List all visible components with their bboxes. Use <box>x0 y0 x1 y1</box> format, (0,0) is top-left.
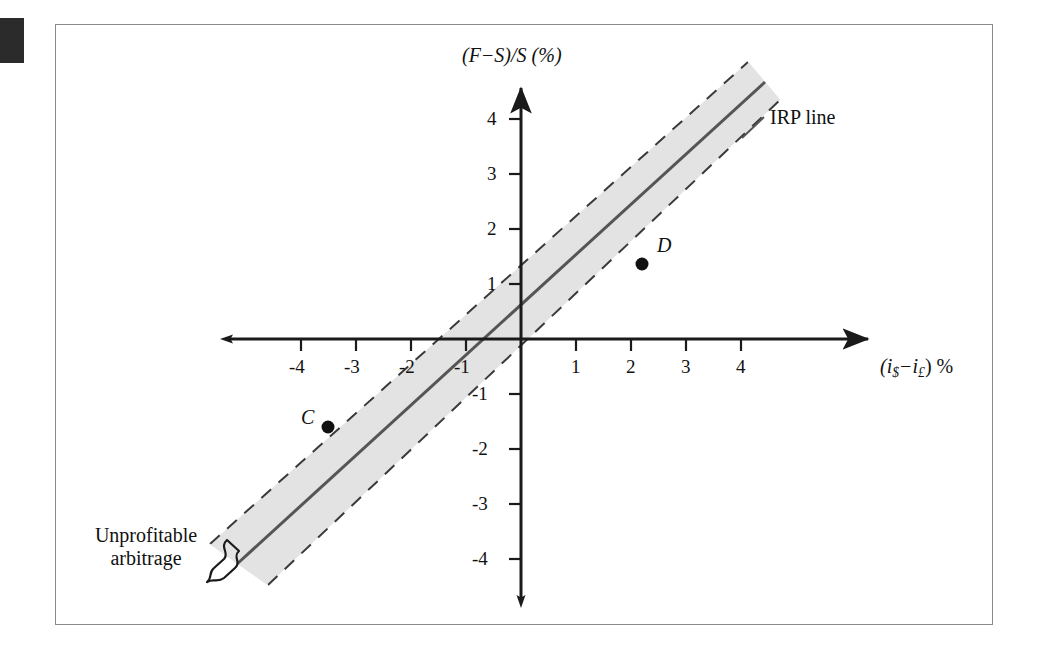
irp-line <box>237 82 765 564</box>
y-tick-label--1: -1 <box>472 383 488 405</box>
unprofitable-arbitrage-label: Unprofitable arbitrage <box>66 524 226 570</box>
subscript-dollar: $ <box>892 365 899 380</box>
y-axis-title: (F−S)/S (%) <box>462 44 562 67</box>
x-tick-label-4: 4 <box>736 356 746 378</box>
y-tick-label-3: 3 <box>487 163 497 185</box>
band-edge-lower <box>268 100 780 585</box>
x-tick-label--1: -1 <box>454 356 470 378</box>
x-axis-title-close: ) % <box>925 355 953 377</box>
figure-page: (F−S)/S (%) (i$−i£) % -4 -3 -2 -1 1 2 3 … <box>0 0 1043 654</box>
y-tick-label-4: 4 <box>487 108 497 130</box>
x-axis-title-i-pound: i£ <box>913 355 925 377</box>
subscript-pound: £ <box>918 365 925 380</box>
y-tick-label-2: 2 <box>487 218 497 240</box>
point-label-C: C <box>301 406 314 429</box>
x-tick-label--4: -4 <box>289 356 305 378</box>
y-tick-label--3: -3 <box>472 493 488 515</box>
x-tick-label--2: -2 <box>399 356 415 378</box>
y-tick-label--2: -2 <box>472 438 488 460</box>
unprofitable-arbitrage-band <box>210 62 780 585</box>
x-tick-label-3: 3 <box>681 356 691 378</box>
data-point-C <box>322 421 335 434</box>
y-tick-label-1: 1 <box>487 273 497 295</box>
x-axis-title-i-dollar: i$ <box>887 355 899 377</box>
x-axis-title: (i$−i£) % <box>880 355 953 380</box>
y-axis-title-text: (F−S)/S (%) <box>462 44 562 66</box>
x-tick-label-2: 2 <box>626 356 636 378</box>
irp-line-label: IRP line <box>770 106 835 129</box>
x-axis-title-minus: − <box>899 355 913 377</box>
y-tick-label--4: -4 <box>472 548 488 570</box>
data-point-D <box>636 258 649 271</box>
x-axis-title-open: ( <box>880 355 887 377</box>
unprofitable-arbitrage-line2: arbitrage <box>66 547 226 570</box>
unprofitable-arbitrage-line1: Unprofitable <box>66 524 226 547</box>
x-tick-label-1: 1 <box>571 356 581 378</box>
point-label-D: D <box>657 234 671 257</box>
x-tick-label--3: -3 <box>344 356 360 378</box>
